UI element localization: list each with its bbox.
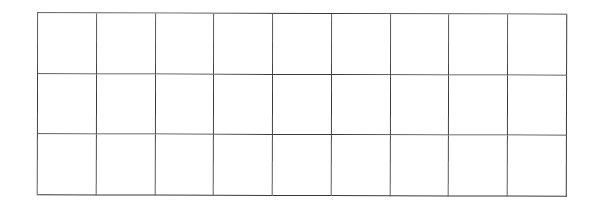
grid-cell (156, 14, 215, 75)
grid-cell (273, 14, 332, 75)
grid-cell (214, 14, 273, 75)
grid-cell (391, 75, 450, 136)
grid-cell (449, 75, 508, 136)
grid-cell (97, 74, 156, 135)
grid-cell (214, 74, 273, 135)
grid-cell (391, 14, 450, 75)
grid-cell (332, 135, 391, 196)
grid-cell (273, 135, 332, 196)
grid-cell (155, 135, 214, 196)
grid-cell (508, 136, 567, 197)
grid-cell (97, 135, 156, 196)
grid-cell (450, 14, 509, 75)
grid-cell (390, 136, 449, 197)
grid-cell (449, 136, 508, 197)
grid-cell (332, 75, 391, 136)
grid-cell (273, 75, 332, 136)
grid-cell (214, 135, 273, 196)
grid-cell (97, 13, 156, 74)
grid-cell (332, 14, 391, 75)
grid-cell (38, 13, 97, 74)
grid-cell (38, 74, 97, 135)
grid-cell (38, 135, 97, 196)
empty-grid (37, 12, 567, 196)
grid-cell (508, 75, 567, 136)
grid-cell (155, 74, 214, 135)
grid-cell (508, 15, 567, 76)
